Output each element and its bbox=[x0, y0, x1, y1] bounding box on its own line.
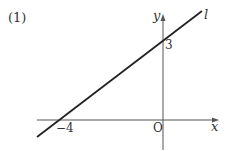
line-l bbox=[37, 11, 202, 137]
y-axis-label: y bbox=[153, 9, 160, 22]
x-intercept-label: −4 bbox=[56, 122, 74, 134]
origin-label: O bbox=[153, 122, 163, 134]
x-axis-label: x bbox=[211, 120, 218, 133]
graph bbox=[0, 0, 231, 151]
y-axis-arrow-icon bbox=[161, 14, 166, 21]
line-label: l bbox=[204, 8, 208, 21]
y-intercept-label: 3 bbox=[165, 39, 173, 51]
